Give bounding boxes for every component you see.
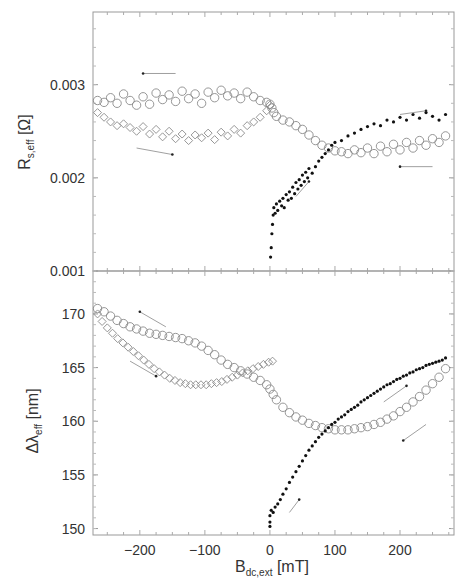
data-point-dot	[314, 165, 317, 168]
data-point-dot	[421, 366, 424, 369]
sweep-arrow-left	[399, 165, 433, 168]
data-point-dot	[320, 433, 323, 436]
data-point-circle	[292, 121, 300, 129]
data-point-circle	[428, 379, 436, 387]
data-point-diamond	[185, 137, 193, 145]
data-point-circle	[236, 94, 244, 102]
data-point-dot	[366, 396, 369, 399]
data-point-dot	[398, 116, 401, 119]
data-point-diamond	[204, 129, 212, 137]
data-point-dot	[290, 197, 293, 200]
data-point-circle	[370, 149, 378, 157]
y-tick-label: 165	[62, 360, 86, 376]
data-point-dot	[320, 156, 323, 159]
x-tick-label: −200	[124, 542, 156, 558]
y-tick-label: 170	[62, 306, 86, 322]
bottom-series-circle	[93, 304, 449, 434]
sweep-arrow-right	[137, 148, 174, 156]
xlabel-main: B	[235, 558, 246, 575]
data-point-circle	[119, 319, 127, 327]
x-tick-label: 200	[388, 542, 412, 558]
top-ticks	[93, 12, 454, 271]
data-point-dot	[343, 413, 346, 416]
y-tick-label: 0.003	[50, 77, 85, 93]
data-point-dot	[353, 132, 356, 135]
data-point-dot	[306, 176, 309, 179]
data-point-dot	[291, 186, 294, 189]
data-point-diamond	[94, 109, 102, 117]
data-point-dot	[268, 521, 271, 524]
data-point-circle	[223, 360, 231, 368]
data-point-dot	[304, 171, 307, 174]
data-point-circle	[383, 148, 391, 156]
x-axis-title: Bdc,ext [mT]	[235, 558, 309, 578]
data-point-dot	[274, 505, 277, 508]
data-point-diamond	[256, 113, 264, 121]
data-point-dot	[382, 385, 385, 388]
y-tick-label: 155	[62, 467, 86, 483]
data-point-circle	[178, 87, 186, 95]
sweep-arrow-right	[289, 498, 300, 512]
data-point-dot	[428, 363, 431, 366]
data-point-dot	[311, 172, 314, 175]
data-point-diamond	[197, 381, 205, 389]
data-point-dot	[379, 387, 382, 390]
data-point-dot	[353, 406, 356, 409]
data-point-dot	[307, 167, 310, 170]
data-point-dot	[444, 113, 447, 116]
top-panel-frame	[93, 12, 454, 271]
data-point-dot	[324, 429, 327, 432]
bottom-xtick-labels: −200−1000100200	[124, 542, 412, 558]
data-point-dot	[272, 511, 275, 514]
data-point-dot	[301, 173, 304, 176]
data-point-dot	[298, 178, 301, 181]
data-point-dot	[274, 212, 277, 215]
data-point-dot	[392, 120, 395, 123]
data-point-dot	[392, 380, 395, 383]
data-point-dot	[272, 206, 275, 209]
data-point-circle	[152, 89, 160, 97]
data-point-dot	[268, 525, 271, 528]
data-point-dot	[415, 368, 418, 371]
data-point-dot	[285, 193, 288, 196]
data-point-circle	[249, 373, 257, 381]
data-point-dot	[296, 187, 299, 190]
data-point-dot	[376, 390, 379, 393]
data-point-dot	[411, 113, 414, 116]
data-point-circle	[298, 416, 306, 424]
data-point-dot	[317, 159, 320, 162]
data-point-circle	[197, 99, 205, 107]
data-point-dot	[270, 246, 273, 249]
data-point-dot	[330, 423, 333, 426]
bottom-arrows	[130, 310, 426, 512]
data-point-dot	[268, 514, 271, 517]
data-point-dot	[369, 394, 372, 397]
top-ylabel-main: R	[16, 158, 33, 170]
data-point-circle	[422, 141, 430, 149]
bottom-panel: 150155160165170 −200−1000100200 Δλeff [n…	[24, 271, 454, 578]
top-series-dot	[269, 111, 447, 259]
data-point-diamond	[152, 125, 160, 133]
data-point-dot	[269, 255, 272, 258]
data-point-dot	[324, 152, 327, 155]
data-point-dot	[281, 493, 284, 496]
data-point-dot	[280, 204, 283, 207]
data-point-dot	[333, 421, 336, 424]
data-point-diamond	[100, 113, 108, 121]
data-point-circle	[210, 94, 218, 102]
data-point-dot	[283, 206, 286, 209]
data-point-dot	[408, 371, 411, 374]
bottom-ylabel-sub: eff	[33, 424, 44, 435]
top-ylabel-unit: [Ω]	[16, 114, 33, 139]
data-point-circle	[422, 386, 430, 394]
top-ylabel-sub: s,eff	[25, 139, 36, 158]
data-point-dot	[304, 454, 307, 457]
data-point-circle	[113, 316, 121, 324]
data-point-circle	[139, 93, 147, 101]
data-point-circle	[191, 90, 199, 98]
xlabel-sub: dc,ext	[246, 567, 273, 578]
data-point-dot	[418, 117, 421, 120]
data-point-dot	[405, 118, 408, 121]
data-point-circle	[441, 364, 449, 372]
top-y-axis-title: Rs,eff [Ω]	[16, 114, 36, 170]
